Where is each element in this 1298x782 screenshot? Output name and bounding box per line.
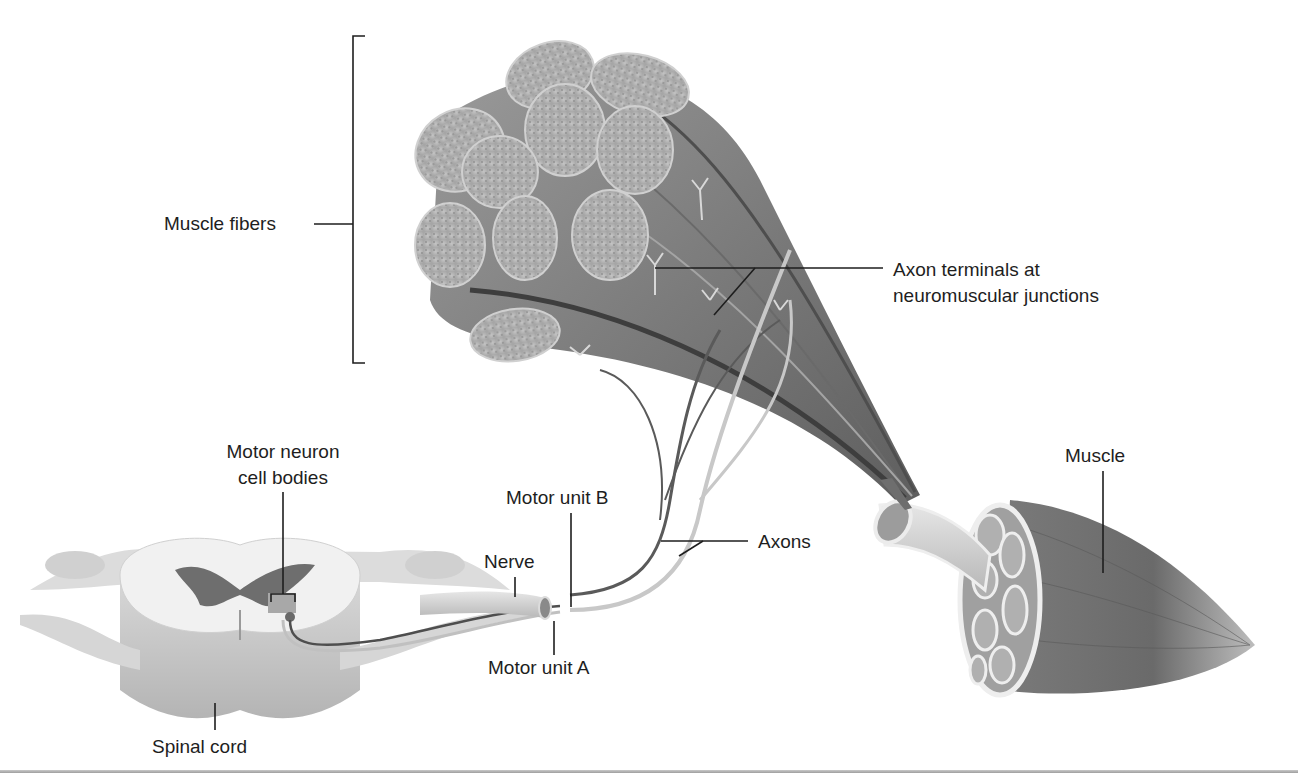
label-axon-terminals-line2: neuromuscular junctions — [893, 284, 1099, 307]
label-motor-unit-a: Motor unit A — [488, 656, 589, 679]
motor-unit-diagram: Muscle fibers Axon terminals at neuromus… — [0, 0, 1298, 782]
label-motor-neuron-line2: cell bodies — [213, 466, 353, 489]
label-muscle: Muscle — [1065, 444, 1125, 467]
label-nerve: Nerve — [484, 550, 535, 573]
label-motor-neuron-line1: Motor neuron — [213, 440, 353, 463]
label-axon-terminals-line1: Axon terminals at — [893, 258, 1040, 281]
muscle-fibers-bracket — [353, 36, 365, 363]
label-muscle-fibers: Muscle fibers — [164, 212, 276, 235]
label-axons: Axons — [758, 530, 811, 553]
muscle — [868, 478, 1255, 695]
spinal-cord — [20, 538, 560, 718]
label-motor-unit-b: Motor unit B — [506, 486, 608, 509]
bottom-divider — [0, 770, 1298, 773]
label-spinal-cord: Spinal cord — [152, 735, 247, 758]
